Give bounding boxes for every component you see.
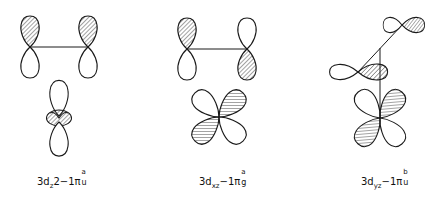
label-dxz: 3dxz−1πag <box>199 175 247 187</box>
label-subscript: xz <box>212 182 220 190</box>
label-sup: a <box>82 169 86 176</box>
label-sub: g <box>241 179 246 187</box>
panel-dyz <box>330 17 425 150</box>
label-middle: 2−1π <box>53 177 80 187</box>
label-symmetry: bu <box>402 175 409 185</box>
label-middle: −1π <box>220 177 241 187</box>
orbital-diagram <box>0 0 440 197</box>
label-subscript: z <box>50 182 54 190</box>
label-subscript: yz <box>374 182 382 190</box>
label-sub: u <box>403 179 408 187</box>
panel-dxz <box>178 18 256 148</box>
dz2-orbital <box>47 80 72 156</box>
p-orbital-lower <box>330 64 388 80</box>
label-dyz: 3dyz−1πbu <box>361 175 409 187</box>
label-sub: u <box>82 179 87 187</box>
label-prefix: 3d <box>37 177 50 187</box>
label-symmetry: ag <box>240 175 247 185</box>
p-orbital-upper <box>383 17 424 32</box>
label-middle: −1π <box>382 177 403 187</box>
label-prefix: 3d <box>199 177 212 187</box>
label-symmetry: au <box>81 175 88 185</box>
label-sup: b <box>403 169 407 176</box>
panel-dz2 <box>21 16 97 156</box>
label-dz2: 3dz2−1πau <box>37 175 88 187</box>
label-sup: a <box>241 169 245 176</box>
label-prefix: 3d <box>361 177 374 187</box>
dxz-orbital <box>188 86 250 148</box>
